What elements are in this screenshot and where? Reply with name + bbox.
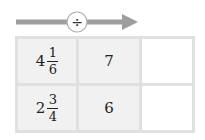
mixed-number: 4 1 6: [36, 46, 59, 77]
answer-cell[interactable]: [142, 86, 192, 130]
divide-icon: ÷: [71, 14, 83, 30]
direction-arrow: ÷: [0, 0, 205, 36]
divisor-cell: 6: [79, 86, 139, 130]
dividend-cell: 4 1 6: [18, 39, 76, 83]
dividend-cell: 2 3 4: [18, 86, 76, 130]
answer-cell[interactable]: [142, 39, 192, 83]
divisor-cell: 7: [79, 39, 139, 83]
mixed-number: 2 3 4: [36, 93, 59, 124]
division-table: 4 1 6 7 2 3 4 6: [15, 36, 195, 133]
